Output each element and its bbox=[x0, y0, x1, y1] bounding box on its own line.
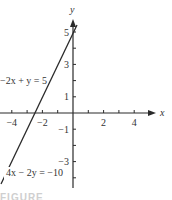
y-tick-label: 5 bbox=[64, 27, 69, 38]
equation-label-1: −2x + y = 5 bbox=[0, 75, 47, 86]
y-axis-arrow-icon bbox=[70, 19, 76, 27]
x-axis: −4 −2 2 4 x bbox=[0, 107, 165, 128]
figure-caption: FIGURE bbox=[0, 193, 100, 200]
coordinate-plane: −4 −2 2 4 x 5 3 1 −1 −3 y −2x + y = 5 4x… bbox=[0, 0, 172, 200]
x-tick-label: 2 bbox=[101, 117, 106, 128]
y-tick-label: 3 bbox=[64, 59, 69, 70]
y-tick-label: −1 bbox=[58, 124, 69, 135]
equation-label-2: 4x − 2y = −10 bbox=[6, 167, 63, 178]
x-axis-label: x bbox=[159, 107, 165, 118]
y-tick-label: −3 bbox=[58, 156, 69, 167]
y-tick-label: 1 bbox=[64, 91, 69, 102]
y-axis-label: y bbox=[69, 4, 75, 15]
x-tick-label: −4 bbox=[6, 117, 17, 128]
caption-text: FIGURE bbox=[0, 193, 100, 200]
x-tick-label: −2 bbox=[37, 117, 48, 128]
x-axis-arrow-icon bbox=[148, 110, 156, 116]
x-tick-label: 4 bbox=[132, 117, 137, 128]
